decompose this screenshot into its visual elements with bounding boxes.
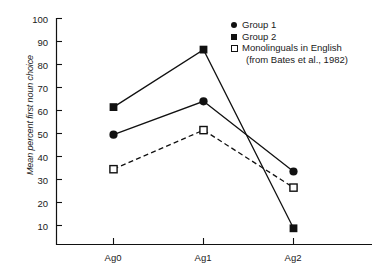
legend-label-group-1: Group 1 — [242, 19, 276, 31]
legend-item-monolinguals: Monolinguals in English — [231, 42, 348, 54]
legend-item-group-1: Group 1 — [231, 19, 348, 31]
filled-square-icon — [231, 31, 242, 42]
legend-label-monolinguals: Monolinguals in English — [242, 42, 342, 54]
chart-figure: Mean percent first noun choice 100 90 80… — [0, 0, 378, 274]
y-axis-ticks — [57, 19, 63, 226]
series-line-group-1 — [114, 101, 294, 171]
open-square-icon — [231, 42, 242, 53]
series-line-monolinguals — [114, 130, 294, 188]
legend-source-text: (from Bates et al., 1982) — [246, 54, 348, 66]
series-markers-group-1 — [109, 97, 297, 175]
series-markers-group-2 — [110, 46, 298, 233]
legend-label-group-2: Group 2 — [242, 31, 276, 43]
legend-item-group-2: Group 2 — [231, 31, 348, 43]
legend-source-note: (from Bates et al., 1982) — [231, 54, 348, 66]
filled-circle-icon — [231, 19, 242, 30]
series-line-group-2 — [114, 50, 294, 229]
x-axis-ticks — [114, 238, 294, 245]
chart-legend: Group 1 Group 2 Monolinguals in English … — [231, 19, 348, 65]
